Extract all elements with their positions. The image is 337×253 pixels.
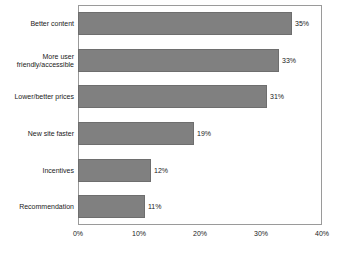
- bar-value-label: 31%: [267, 93, 284, 101]
- category-axis: Better content More user friendly/access…: [0, 5, 74, 225]
- bar-row: 12%: [78, 159, 322, 182]
- bar-value-label: 33%: [279, 57, 296, 65]
- bar-value-label: 11%: [145, 203, 162, 211]
- bar-value-label: 35%: [292, 20, 309, 28]
- bar: [78, 159, 151, 182]
- x-tick-label: 30%: [254, 230, 268, 238]
- x-tick-label: 40%: [315, 230, 329, 238]
- bar: [78, 195, 145, 218]
- bar: [78, 122, 194, 145]
- x-tick-label: 10%: [132, 230, 146, 238]
- category-label: Better content: [0, 19, 74, 28]
- bar: [78, 12, 292, 35]
- bar-row: 19%: [78, 122, 322, 145]
- bar-row: 31%: [78, 85, 322, 108]
- bar: [78, 49, 279, 72]
- bar-chart: Better content More user friendly/access…: [0, 0, 337, 253]
- bar: [78, 85, 267, 108]
- bar-value-label: 12%: [151, 167, 168, 175]
- bar-value-label: 19%: [194, 130, 211, 138]
- category-label: Lower/better prices: [0, 92, 74, 101]
- category-label: More user friendly/accessible: [0, 52, 74, 69]
- category-label: New site faster: [0, 129, 74, 138]
- x-tick-label: 0%: [73, 230, 83, 238]
- x-tick-label: 20%: [193, 230, 207, 238]
- bar-row: 35%: [78, 12, 322, 35]
- x-axis: 0% 10% 20% 30% 40%: [78, 226, 322, 246]
- bars-layer: 35% 33% 31% 19% 12% 11%: [78, 5, 322, 225]
- category-label: Incentives: [0, 166, 74, 175]
- bar-row: 11%: [78, 195, 322, 218]
- bar-row: 33%: [78, 49, 322, 72]
- category-label: Recommendation: [0, 202, 74, 211]
